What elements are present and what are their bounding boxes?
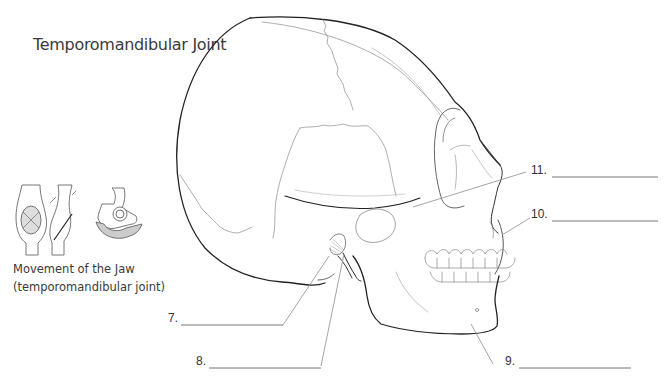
cranium-outline (250, 17, 500, 165)
jaw-movement-caption: Movement of the Jaw (temporomandibular j… (13, 260, 165, 296)
caption-line-2: (temporomandibular joint) (13, 278, 165, 296)
answer-blank-lines (181, 177, 658, 368)
label-7-number: 7. (168, 311, 178, 325)
caption-line-1: Movement of the Jaw (13, 260, 165, 278)
label-11-number: 11. (531, 163, 547, 177)
jaw-movement-illustration (16, 185, 142, 255)
label-10-number: 10. (531, 207, 548, 221)
leader-lines (283, 172, 530, 366)
skull-illustration (0, 0, 668, 378)
label-9-number: 9. (505, 354, 515, 368)
label-8-number: 8. (196, 354, 206, 368)
